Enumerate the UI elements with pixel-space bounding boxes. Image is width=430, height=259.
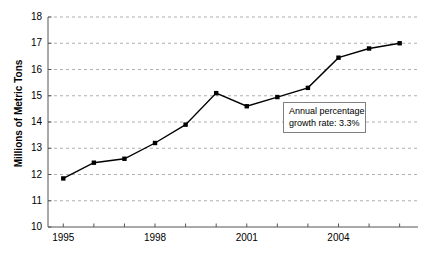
y-tick-label: 18 [18,12,42,22]
y-tick-label: 12 [18,170,42,180]
y-tick-label: 14 [18,117,42,127]
y-tick-label: 13 [18,143,42,153]
annotation-line-1: Annual percentage [289,106,361,118]
y-tick-label: 11 [18,196,42,206]
x-axis-ticks [63,224,399,228]
annotation-growth-rate: Annual percentage growth rate: 3.3% [283,102,366,133]
y-tick-label: 17 [18,38,42,48]
x-tick-label: 2001 [227,233,267,243]
y-tick-label: 16 [18,65,42,75]
y-tick-label: 15 [18,91,42,101]
annotation-line-2: growth rate: 3.3% [289,118,361,130]
x-tick-label: 1998 [135,233,175,243]
x-tick-label: 1995 [43,233,83,243]
y-axis-ticks [48,17,52,227]
line-chart: Millions of Metric Tons 1011121314151617… [0,0,430,259]
y-tick-label: 10 [18,222,42,232]
x-tick-label: 2004 [318,233,358,243]
